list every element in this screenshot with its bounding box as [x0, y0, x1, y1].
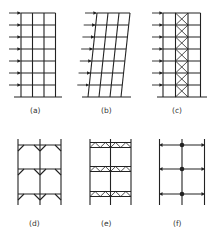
- knee-brace: [18, 194, 24, 200]
- knee-brace: [55, 169, 61, 175]
- column: [99, 13, 108, 97]
- knee-brace: [55, 194, 61, 200]
- frame-d: [18, 139, 61, 205]
- rigid-joint: [180, 192, 185, 197]
- truss-web: [90, 167, 95, 172]
- structural-frames-figure: (a) (b) (c) (d) (e) (f): [0, 0, 220, 233]
- truss-web: [111, 143, 116, 148]
- knee-brace: [40, 169, 46, 175]
- truss-web: [105, 192, 110, 197]
- knee-brace: [18, 145, 24, 151]
- truss-web: [95, 192, 100, 197]
- truss-web: [90, 192, 95, 197]
- truss-web: [126, 167, 131, 172]
- frame-e: [90, 139, 131, 205]
- truss-web: [105, 167, 110, 172]
- panel-label-f: (f): [173, 219, 182, 228]
- truss-web: [116, 167, 121, 172]
- truss-web: [95, 143, 100, 148]
- truss-web: [100, 167, 105, 172]
- panel-label-a: (a): [30, 106, 41, 115]
- knee-brace: [18, 169, 24, 175]
- panel-label-d: (d): [29, 219, 40, 228]
- knee-brace: [34, 194, 40, 200]
- truss-web: [126, 192, 131, 197]
- truss-web: [111, 192, 116, 197]
- rigid-joint: [180, 167, 185, 172]
- panel-label-e: (e): [101, 219, 112, 228]
- knee-brace: [34, 145, 40, 151]
- rigid-joint: [180, 143, 185, 148]
- knee-brace: [55, 145, 61, 151]
- truss-web: [126, 143, 131, 148]
- truss-web: [121, 167, 126, 172]
- panel-label-b: (b): [101, 106, 112, 115]
- column: [110, 13, 119, 97]
- column: [88, 13, 97, 97]
- knee-brace: [40, 145, 46, 151]
- panel-label-c: (c): [172, 106, 182, 115]
- frame-f: [160, 139, 205, 205]
- truss-web: [90, 143, 95, 148]
- frame-b: [77, 13, 131, 97]
- knee-brace: [34, 169, 40, 175]
- truss-web: [95, 167, 100, 172]
- truss-web: [116, 143, 121, 148]
- frame-c: [152, 13, 207, 97]
- truss-web: [121, 192, 126, 197]
- truss-web: [105, 143, 110, 148]
- knee-brace: [40, 194, 46, 200]
- truss-web: [100, 143, 105, 148]
- truss-web: [111, 167, 116, 172]
- frame-a: [9, 13, 62, 97]
- truss-web: [100, 192, 105, 197]
- truss-web: [116, 192, 121, 197]
- truss-web: [121, 143, 126, 148]
- column: [121, 13, 130, 97]
